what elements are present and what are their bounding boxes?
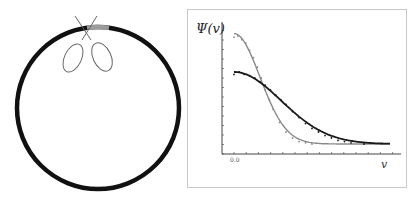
point-narrow	[279, 122, 281, 124]
point-wide	[238, 71, 240, 73]
point-wide	[270, 89, 272, 91]
point-wide	[233, 74, 235, 76]
point-narrow	[305, 142, 307, 144]
point-wide	[337, 140, 339, 142]
point-narrow	[257, 66, 259, 68]
point-wide	[244, 74, 246, 76]
point-wide	[324, 135, 326, 137]
point-narrow	[298, 141, 300, 143]
point-narrow	[233, 36, 235, 38]
point-wide	[259, 81, 261, 83]
curves	[234, 34, 390, 144]
x-tick-label-0: 0.0	[230, 156, 240, 163]
x-axis-label: v	[381, 158, 388, 171]
point-narrow	[241, 39, 243, 41]
curve-wide	[234, 72, 390, 144]
point-wide	[254, 77, 256, 79]
point-wide	[298, 117, 300, 119]
point-narrow	[285, 131, 287, 133]
scissors-icon	[59, 16, 117, 75]
point-wide	[285, 104, 287, 106]
point-wide	[280, 99, 282, 101]
point-wide	[292, 111, 294, 113]
point-narrow	[311, 143, 313, 145]
point-wide	[331, 137, 333, 139]
y-axis-label: Ψ(v)	[196, 21, 225, 36]
curve-narrow	[234, 34, 390, 144]
point-wide	[363, 143, 365, 145]
point-wide	[305, 123, 307, 125]
point-wide	[318, 131, 320, 133]
psi-plot: Ψ(v) v 0.0	[188, 10, 408, 189]
point-wide	[311, 128, 313, 130]
point-wide	[275, 94, 277, 96]
point-narrow	[272, 108, 274, 110]
point-narrow	[264, 89, 266, 91]
point-narrow	[245, 42, 247, 44]
ring	[17, 27, 179, 189]
data-points	[233, 35, 365, 145]
point-narrow	[237, 35, 239, 37]
point-narrow	[292, 137, 294, 139]
psi-plot-panel: Ψ(v) v 0.0	[187, 9, 407, 188]
axes	[222, 22, 401, 154]
ring-diagram	[0, 0, 185, 201]
point-narrow	[260, 77, 262, 79]
point-wide	[350, 142, 352, 144]
point-wide	[344, 141, 346, 143]
point-wide	[249, 75, 251, 77]
point-wide	[264, 84, 266, 86]
point-narrow	[249, 50, 251, 52]
point-narrow	[253, 57, 255, 59]
point-narrow	[268, 99, 270, 101]
